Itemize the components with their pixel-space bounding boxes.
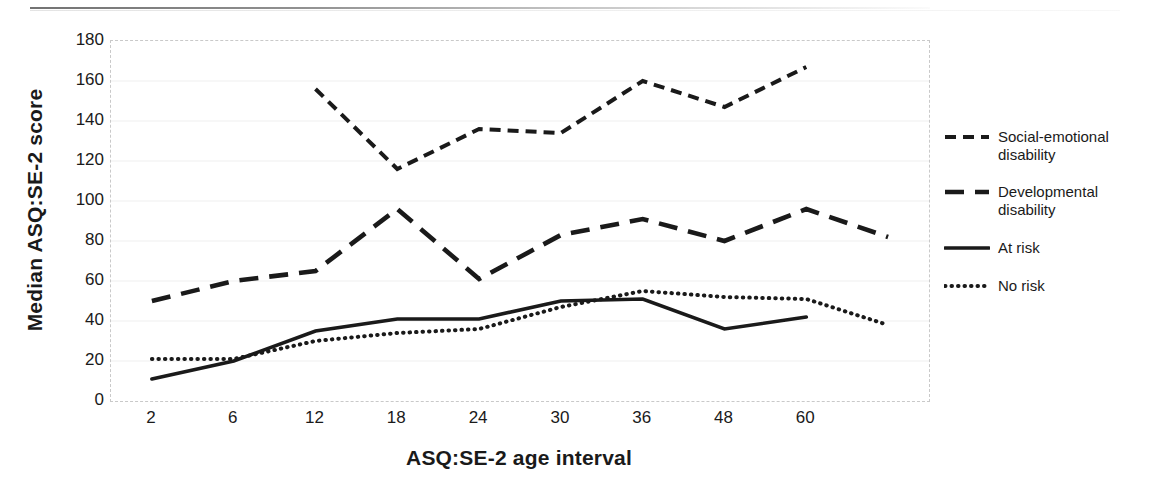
x-tick-label: 36 [612, 408, 672, 428]
x-axis-title: ASQ:SE-2 age interval [110, 446, 928, 470]
y-tick-label: 100 [58, 190, 104, 210]
legend-swatch-dotted-icon [944, 277, 990, 295]
chart-legend: Social-emotionaldisabilityDevelopmentald… [944, 128, 1149, 315]
y-tick-label: 160 [58, 70, 104, 90]
legend-label-line-1: No risk [998, 277, 1045, 295]
legend-item-label: At risk [998, 239, 1040, 257]
legend-item[interactable]: Developmentaldisability [944, 183, 1149, 218]
x-tick-label: 24 [448, 408, 508, 428]
x-tick-label: 48 [694, 408, 754, 428]
x-tick-label: 6 [203, 408, 263, 428]
legend-item-label: Developmentaldisability [998, 183, 1098, 218]
y-tick-label: 40 [58, 310, 104, 330]
scan-artifact-line [30, 7, 930, 9]
y-tick-label: 20 [58, 350, 104, 370]
plot-area [110, 40, 930, 402]
x-tick-label: 30 [530, 408, 590, 428]
legend-label-line-1: At risk [998, 239, 1040, 257]
y-tick-label: 80 [58, 230, 104, 250]
legend-label-line-2: disability [998, 146, 1109, 164]
x-tick-label: 2 [121, 408, 181, 428]
y-tick-label: 120 [58, 150, 104, 170]
series-line-at-risk [152, 299, 806, 379]
legend-label-line-1: Social-emotional [998, 128, 1109, 146]
legend-item[interactable]: No risk [944, 277, 1149, 295]
legend-item-label: No risk [998, 277, 1045, 295]
legend-swatch-short-dashed-icon [944, 128, 990, 146]
x-tick-label: 12 [285, 408, 345, 428]
x-axis-tick-labels: 2612182430364860 [0, 408, 1149, 434]
plot-svg [111, 41, 929, 401]
y-tick-label: 60 [58, 270, 104, 290]
y-axis-title-text: Median ASQ:SE-2 score [23, 89, 47, 332]
chart-figure: Median ASQ:SE-2 score 020406080100120140… [0, 0, 1149, 488]
y-tick-label: 180 [58, 30, 104, 50]
x-tick-label: 18 [366, 408, 426, 428]
legend-item[interactable]: Social-emotionaldisability [944, 128, 1149, 163]
series-line-developmental-disability [152, 209, 888, 301]
legend-item[interactable]: At risk [944, 239, 1149, 257]
legend-label-line-1: Developmental [998, 183, 1098, 201]
legend-item-label: Social-emotionaldisability [998, 128, 1109, 163]
legend-swatch-solid-icon [944, 239, 990, 257]
legend-label-line-2: disability [998, 201, 1098, 219]
x-tick-label: 60 [775, 408, 835, 428]
scan-artifact-line-secondary [30, 10, 1120, 11]
y-tick-label: 0 [58, 390, 104, 410]
series-line-social-emotional-disability [316, 67, 807, 169]
y-tick-label: 140 [58, 110, 104, 130]
legend-swatch-long-dashed-icon [944, 183, 990, 201]
